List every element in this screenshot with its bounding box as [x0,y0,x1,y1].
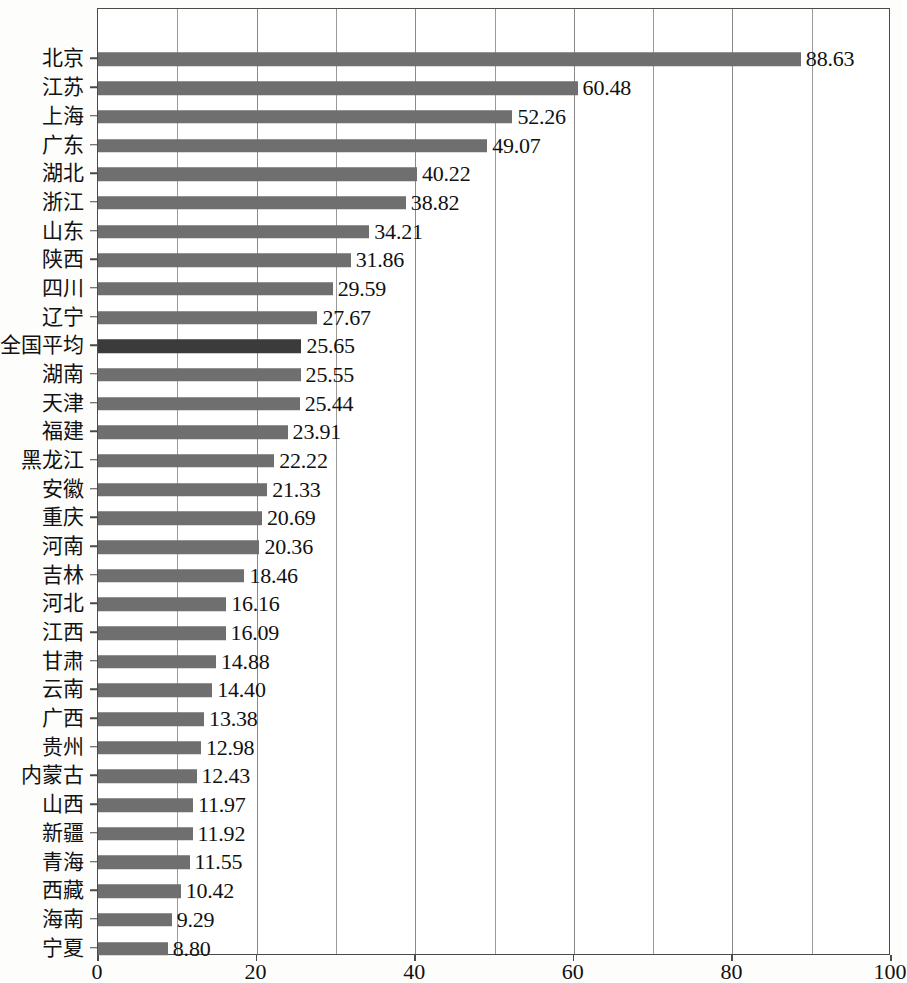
bar-上海[interactable] [98,110,512,124]
category-label-河南: 河南 [42,536,84,557]
bar-value-label-安徽: 21.33 [272,479,321,501]
bar-云南[interactable] [98,684,212,698]
bar-广东[interactable] [98,139,487,153]
category-label-青海: 青海 [42,851,84,872]
bar-山东[interactable] [98,225,369,239]
bar-贵州[interactable] [98,741,201,755]
category-tick-山西 [90,803,97,805]
bar-湖南[interactable] [98,368,301,382]
bar-黑龙江[interactable] [98,454,274,468]
category-label-广东: 广东 [42,134,84,155]
bar-value-label-重庆: 20.69 [267,507,316,529]
category-tick-湖南 [90,373,97,375]
bar-value-label-甘肃: 14.88 [221,651,270,673]
bar-浙江[interactable] [98,196,406,210]
category-label-江西: 江西 [42,622,84,643]
category-tick-新疆 [90,832,97,834]
category-label-安徽: 安徽 [42,478,84,499]
bar-湖北[interactable] [98,167,417,181]
category-tick-西藏 [90,889,97,891]
category-tick-甘肃 [90,660,97,662]
category-axis: 北京江苏上海广东湖北浙江山东陕西四川辽宁全国平均湖南天津福建黑龙江安徽重庆河南吉… [0,8,97,955]
bar-row: 23.91 [98,418,889,447]
category-label-云南: 云南 [42,679,84,700]
bar-row: 38.82 [98,189,889,218]
bar-海南[interactable] [98,913,172,927]
category-tick-青海 [90,861,97,863]
bar-value-label-江苏: 60.48 [583,77,632,99]
bar-value-label-河南: 20.36 [264,536,313,558]
bar-陕西[interactable] [98,253,351,267]
category-tick-全国平均 [90,345,97,347]
category-label-北京: 北京 [42,48,84,69]
category-tick-辽宁 [90,316,97,318]
bar-吉林[interactable] [98,569,244,583]
x-tick-label-100: 100 [874,961,907,983]
bar-row: 20.36 [98,533,889,562]
bar-辽宁[interactable] [98,311,317,325]
bar-row: 31.86 [98,246,889,275]
bar-value-label-全国平均: 25.65 [306,335,355,357]
category-tick-贵州 [90,746,97,748]
category-tick-广东 [90,144,97,146]
category-tick-上海 [90,115,97,117]
category-tick-重庆 [90,517,97,519]
bar-宁夏[interactable] [98,942,168,956]
category-label-海南: 海南 [42,908,84,929]
bar-row: 11.92 [98,819,889,848]
bar-value-label-青海: 11.55 [195,851,243,873]
bar-row: 9.29 [98,906,889,935]
category-tick-河南 [90,545,97,547]
bar-广西[interactable] [98,712,204,726]
bar-row: 12.43 [98,762,889,791]
category-tick-吉林 [90,574,97,576]
bar-value-label-广西: 13.38 [209,708,258,730]
category-label-河北: 河北 [42,593,84,614]
category-tick-天津 [90,402,97,404]
bar-江西[interactable] [98,626,226,640]
bar-row: 12.98 [98,733,889,762]
category-label-西藏: 西藏 [42,880,84,901]
category-tick-福建 [90,431,97,433]
bar-重庆[interactable] [98,512,262,526]
bar-安徽[interactable] [98,483,267,497]
bar-row: 29.59 [98,275,889,304]
bar-全国平均[interactable] [98,340,301,354]
bar-江苏[interactable] [98,81,578,95]
bar-value-label-内蒙古: 12.43 [202,765,251,787]
bar-河北[interactable] [98,598,226,612]
category-label-湖北: 湖北 [42,163,84,184]
bar-value-label-山西: 11.97 [198,794,246,816]
x-tick-label-60: 60 [562,961,584,983]
bar-天津[interactable] [98,397,300,411]
bar-四川[interactable] [98,282,333,296]
category-label-重庆: 重庆 [42,507,84,528]
category-label-吉林: 吉林 [42,564,84,585]
category-tick-安徽 [90,488,97,490]
category-tick-云南 [90,689,97,691]
bar-row: 13.38 [98,705,889,734]
bar-内蒙古[interactable] [98,770,197,784]
category-label-甘肃: 甘肃 [42,650,84,671]
bar-新疆[interactable] [98,827,193,841]
bar-row: 20.69 [98,504,889,533]
x-tick-label-40: 40 [403,961,425,983]
bar-row: 11.97 [98,791,889,820]
category-tick-宁夏 [90,947,97,949]
category-label-黑龙江: 黑龙江 [21,449,84,470]
bar-青海[interactable] [98,856,190,870]
bar-row: 14.40 [98,676,889,705]
category-tick-黑龙江 [90,459,97,461]
bar-山西[interactable] [98,798,193,812]
bar-row: 14.88 [98,647,889,676]
bar-甘肃[interactable] [98,655,216,669]
bar-福建[interactable] [98,426,288,440]
bar-西藏[interactable] [98,884,181,898]
bar-北京[interactable] [98,53,801,67]
category-tick-海南 [90,918,97,920]
bar-河南[interactable] [98,540,259,554]
bar-row: 18.46 [98,561,889,590]
x-tick-label-80: 80 [720,961,742,983]
category-label-新疆: 新疆 [42,822,84,843]
category-tick-河北 [90,603,97,605]
